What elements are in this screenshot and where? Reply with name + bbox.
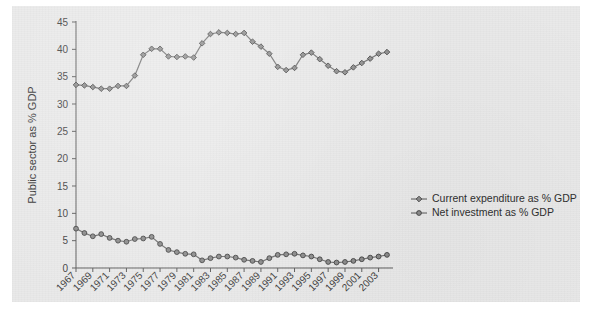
- data-point-marker: [115, 83, 121, 89]
- y-tick-label: 10: [57, 208, 69, 219]
- data-point-marker: [107, 236, 112, 241]
- data-point-marker: [259, 260, 264, 265]
- data-point-marker: [283, 67, 289, 73]
- data-point-marker: [385, 252, 390, 257]
- data-point-marker: [216, 30, 222, 36]
- data-point-marker: [359, 257, 364, 262]
- data-point-marker: [292, 251, 297, 256]
- data-point-marker: [166, 248, 171, 253]
- data-point-marker: [73, 82, 79, 88]
- data-point-marker: [416, 196, 422, 202]
- series-circle: [74, 226, 390, 265]
- data-point-marker: [376, 254, 381, 259]
- y-axis-title: Public sector as % GDP: [26, 86, 38, 203]
- data-point-marker: [250, 258, 255, 263]
- data-point-marker: [284, 252, 289, 257]
- data-point-marker: [99, 232, 104, 237]
- data-point-marker: [301, 253, 306, 258]
- data-point-marker: [267, 256, 272, 261]
- data-point-marker: [233, 31, 239, 37]
- y-tick-label: 35: [57, 71, 69, 82]
- data-point-marker: [225, 254, 230, 259]
- data-point-marker: [74, 226, 79, 231]
- data-point-marker: [191, 252, 196, 257]
- legend-item: Net investment as % GDP: [411, 206, 554, 218]
- y-tick-label: 45: [57, 17, 69, 28]
- data-point-marker: [317, 257, 322, 262]
- legend-item: Current expenditure as % GDP: [411, 192, 577, 204]
- data-point-marker: [191, 55, 197, 61]
- y-tick-label: 15: [57, 181, 69, 192]
- data-point-marker: [82, 83, 88, 89]
- legend-label: Net investment as % GDP: [432, 206, 554, 218]
- data-point-marker: [90, 84, 96, 90]
- data-point-marker: [384, 49, 390, 55]
- y-tick-label: 25: [57, 126, 69, 137]
- y-tick-label: 20: [57, 153, 69, 164]
- chart-figure-panel: 0510152025303540451967196919711973197519…: [12, 6, 580, 302]
- series-diamond: [73, 30, 390, 92]
- screenshot-root: 0510152025303540451967196919711973197519…: [0, 0, 594, 323]
- data-point-marker: [208, 256, 213, 261]
- data-point-marker: [124, 239, 129, 244]
- data-point-marker: [368, 255, 373, 260]
- data-point-marker: [334, 260, 339, 265]
- data-point-marker: [216, 254, 221, 259]
- data-point-marker: [107, 86, 113, 92]
- data-point-marker: [98, 86, 104, 92]
- data-point-marker: [359, 60, 365, 66]
- data-point-marker: [90, 234, 95, 239]
- data-point-marker: [351, 65, 357, 71]
- data-point-marker: [417, 211, 422, 216]
- data-point-marker: [158, 242, 163, 247]
- data-point-marker: [182, 54, 188, 60]
- legend-label: Current expenditure as % GDP: [432, 192, 577, 204]
- data-point-marker: [116, 238, 121, 243]
- data-point-marker: [376, 51, 382, 57]
- data-point-marker: [309, 254, 314, 259]
- data-point-marker: [351, 258, 356, 263]
- data-point-marker: [183, 251, 188, 256]
- x-tick-label: 2003: [356, 269, 380, 293]
- data-point-marker: [326, 260, 331, 265]
- data-point-marker: [343, 260, 348, 265]
- y-tick-label: 5: [62, 235, 68, 246]
- data-point-marker: [242, 257, 247, 262]
- data-point-marker: [174, 54, 180, 60]
- data-point-marker: [149, 234, 154, 239]
- line-chart: 0510152025303540451967196919711973197519…: [12, 6, 580, 302]
- y-tick-label: 30: [57, 99, 69, 110]
- y-tick-label: 40: [57, 44, 69, 55]
- data-point-marker: [174, 250, 179, 255]
- data-point-marker: [367, 56, 373, 62]
- data-point-marker: [82, 231, 87, 236]
- data-point-marker: [275, 252, 280, 257]
- data-point-marker: [233, 255, 238, 260]
- series-line: [76, 229, 387, 263]
- data-point-marker: [200, 258, 205, 263]
- data-point-marker: [132, 237, 137, 242]
- data-point-marker: [342, 69, 348, 75]
- series-line: [76, 32, 387, 88]
- data-point-marker: [141, 236, 146, 241]
- data-point-marker: [224, 30, 230, 36]
